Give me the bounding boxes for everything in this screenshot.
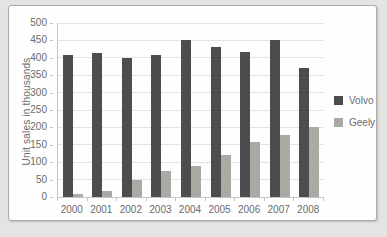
gridline-450 bbox=[58, 40, 324, 41]
bar-geely-2004 bbox=[191, 166, 201, 197]
y-tick-mark-400 bbox=[50, 58, 53, 59]
gridline-500 bbox=[58, 23, 324, 24]
x-tick-label-2006: 2006 bbox=[234, 205, 264, 215]
y-tick-mark-200 bbox=[50, 127, 53, 128]
bar-volvo-2002 bbox=[122, 58, 132, 197]
y-tick-mark-450 bbox=[50, 40, 53, 41]
bar-volvo-2007 bbox=[270, 40, 280, 197]
x-tick-mark-7 bbox=[264, 198, 265, 201]
x-tick-label-2004: 2004 bbox=[175, 205, 205, 215]
y-tick-mark-150 bbox=[50, 145, 53, 146]
bar-geely-2001 bbox=[102, 191, 112, 197]
legend-item-geely: Geely bbox=[334, 117, 375, 128]
bar-volvo-2003 bbox=[151, 55, 161, 197]
y-tick-mark-100 bbox=[50, 162, 53, 163]
bar-geely-2006 bbox=[250, 142, 260, 197]
y-tick-label-50: 50 bbox=[9, 175, 47, 185]
bar-volvo-2005 bbox=[211, 47, 221, 197]
bar-geely-2007 bbox=[280, 135, 290, 197]
y-tick-label-300: 300 bbox=[9, 88, 47, 98]
x-tick-mark-4 bbox=[175, 198, 176, 201]
legend: VolvoGeely bbox=[334, 95, 375, 139]
x-tick-mark-8 bbox=[293, 198, 294, 201]
x-tick-mark-2 bbox=[116, 198, 117, 201]
y-axis: 050100150200250300350400450500 bbox=[9, 23, 53, 197]
x-tick-label-2005: 2005 bbox=[205, 205, 235, 215]
bar-geely-2002 bbox=[132, 180, 142, 197]
y-tick-label-150: 150 bbox=[9, 140, 47, 150]
chart-panel: Unit sales in thousands 0501001502002503… bbox=[8, 5, 377, 221]
bar-geely-2008 bbox=[309, 127, 319, 197]
bar-volvo-2001 bbox=[92, 53, 102, 197]
x-tick-mark-0 bbox=[57, 198, 58, 201]
y-tick-label-250: 250 bbox=[9, 105, 47, 115]
x-tick-label-2007: 2007 bbox=[264, 205, 294, 215]
x-tick-label-2000: 2000 bbox=[57, 205, 87, 215]
bar-volvo-2000 bbox=[63, 55, 73, 197]
legend-label-geely: Geely bbox=[349, 117, 375, 128]
y-tick-mark-0 bbox=[50, 197, 53, 198]
y-tick-label-500: 500 bbox=[9, 18, 47, 28]
y-tick-label-200: 200 bbox=[9, 122, 47, 132]
plot-area bbox=[57, 23, 324, 198]
x-tick-mark-6 bbox=[234, 198, 235, 201]
legend-label-volvo: Volvo bbox=[349, 95, 373, 106]
bar-geely-2000 bbox=[73, 194, 83, 197]
y-tick-label-350: 350 bbox=[9, 70, 47, 80]
y-tick-mark-250 bbox=[50, 110, 53, 111]
legend-item-volvo: Volvo bbox=[334, 95, 375, 106]
x-tick-mark-5 bbox=[205, 198, 206, 201]
x-tick-mark-9 bbox=[323, 198, 324, 201]
bar-geely-2005 bbox=[221, 155, 231, 197]
bar-geely-2003 bbox=[161, 171, 171, 197]
x-tick-label-2001: 2001 bbox=[87, 205, 117, 215]
x-tick-mark-1 bbox=[87, 198, 88, 201]
y-tick-mark-50 bbox=[50, 180, 53, 181]
bar-volvo-2004 bbox=[181, 40, 191, 197]
y-tick-label-400: 400 bbox=[9, 53, 47, 63]
y-tick-label-0: 0 bbox=[9, 192, 47, 202]
x-axis: 200020012002200320042005200620072008 bbox=[57, 202, 323, 218]
x-tick-label-2008: 2008 bbox=[293, 205, 323, 215]
legend-swatch-volvo bbox=[334, 96, 343, 105]
bar-volvo-2006 bbox=[240, 52, 250, 197]
y-tick-label-450: 450 bbox=[9, 35, 47, 45]
bar-volvo-2008 bbox=[299, 68, 309, 197]
y-tick-mark-500 bbox=[50, 23, 53, 24]
legend-swatch-geely bbox=[334, 118, 343, 127]
y-tick-label-100: 100 bbox=[9, 157, 47, 167]
y-tick-mark-350 bbox=[50, 75, 53, 76]
y-tick-mark-300 bbox=[50, 93, 53, 94]
x-tick-label-2003: 2003 bbox=[146, 205, 176, 215]
x-tick-mark-3 bbox=[146, 198, 147, 201]
x-tick-label-2002: 2002 bbox=[116, 205, 146, 215]
